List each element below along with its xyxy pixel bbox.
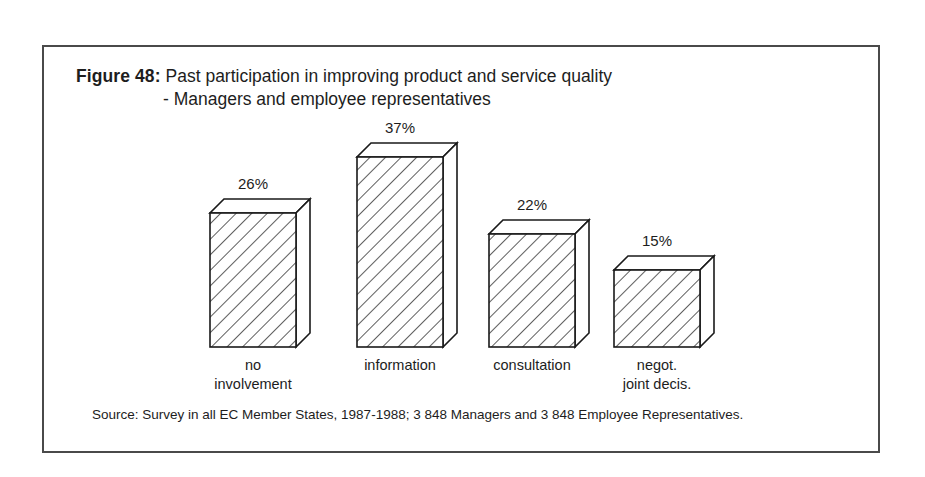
bar-value-label-no-involvement: 26% [238,175,268,192]
bar-group-consultation [489,220,589,347]
bar-group-information [357,143,457,347]
bar-top-face [357,143,457,157]
bar-front-face [210,213,296,347]
bar-group-negot-joint-decis [614,256,714,347]
category-label-line: consultation [493,356,570,375]
category-label-consultation: consultation [493,356,570,375]
category-label-line: negot. [623,356,692,375]
category-label-negot-joint-decis: negot. joint decis. [623,356,692,394]
chart-plot-area: 26% 37% 22% 15% no involvement informati… [44,47,878,451]
bar-value-label-information: 37% [385,119,415,136]
bar-value-label-consultation: 22% [517,196,547,213]
bar-top-face [489,220,589,234]
bar-side-face [575,220,589,347]
bar-front-face [489,234,575,347]
source-note: Source: Survey in all EC Member States, … [92,407,743,422]
bar-top-face [614,256,714,270]
bar-side-face [700,256,714,347]
bar-top-face [210,199,310,213]
bar-chart-svg [44,47,878,451]
category-label-line: information [364,356,436,375]
category-label-line: no [214,356,291,375]
bar-front-face [357,157,443,347]
figure-frame: Figure 48: Past participation in improvi… [42,45,880,453]
bar-group-no-involvement [210,199,310,347]
category-label-information: information [364,356,436,375]
category-label-line: joint decis. [623,375,692,394]
bar-side-face [443,143,457,347]
bar-side-face [296,199,310,347]
category-label-line: involvement [214,375,291,394]
category-label-no-involvement: no involvement [214,356,291,394]
bar-value-label-negot-joint-decis: 15% [642,232,672,249]
bar-front-face [614,270,700,347]
